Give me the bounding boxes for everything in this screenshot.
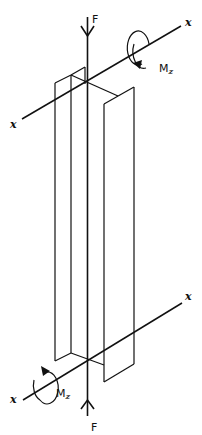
left-flange (55, 67, 85, 361)
i-beam (55, 67, 134, 382)
x-axis-bottom: x x (9, 290, 192, 406)
beam-diagram: x x x x F F Mz Mz (0, 0, 202, 435)
right-flange (104, 87, 134, 382)
force-top-arrow-icon: F (81, 13, 98, 36)
diagram-canvas: x x x x F F Mz Mz (0, 0, 202, 435)
moment-label-bottom: Mz (56, 387, 71, 401)
web (71, 75, 118, 365)
force-bottom-arrow-icon: F (81, 400, 97, 434)
moment-label-top: Mz (159, 62, 174, 76)
axis-label-bottom-right: x (184, 290, 192, 303)
force-label-bottom: F (91, 421, 97, 434)
axis-label-top-right: x (184, 16, 192, 29)
force-label-top: F (92, 13, 98, 26)
moment-bottom-icon: Mz (33, 366, 70, 404)
axis-label-bottom-left: x (9, 393, 17, 406)
axis-label-top-left: x (9, 118, 17, 131)
